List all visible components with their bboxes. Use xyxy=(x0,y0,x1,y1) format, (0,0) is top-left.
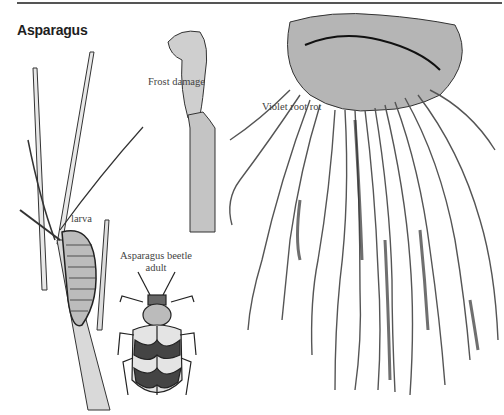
asparagus-stem-illustration xyxy=(20,52,143,410)
frost-damage-illustration xyxy=(168,31,215,232)
larva-label: larva xyxy=(71,213,92,224)
asparagus-beetle-illustration xyxy=(118,272,196,395)
illustration-canvas xyxy=(0,0,504,415)
frost-damage-label: Frost damage xyxy=(148,76,205,87)
violet-root-rot-label: Violet root rot xyxy=(262,101,321,112)
asparagus-beetle-label-line1: Asparagus beetle xyxy=(120,250,192,262)
asparagus-beetle-label-line2: adult xyxy=(120,262,192,274)
larva-illustration xyxy=(62,231,96,326)
violet-root-rot-illustration xyxy=(230,14,498,395)
asparagus-beetle-label: Asparagus beetle adult xyxy=(120,250,192,274)
